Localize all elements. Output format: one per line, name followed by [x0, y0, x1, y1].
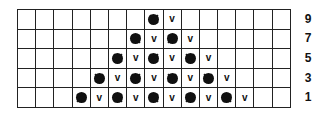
grid-cell — [236, 49, 254, 69]
grid-cell — [109, 30, 127, 50]
grid-cell — [164, 30, 182, 50]
grid-cell — [36, 10, 54, 30]
grid-cell: v — [145, 30, 163, 50]
grid-cell — [36, 30, 54, 50]
grid-cell: v — [236, 88, 254, 108]
v-stitch-symbol: v — [133, 53, 139, 63]
grid-cell — [254, 69, 272, 89]
grid-cell — [273, 30, 291, 50]
v-stitch-symbol: v — [169, 93, 175, 103]
star-burst-icon — [168, 34, 177, 43]
grid-cell — [91, 69, 109, 89]
v-stitch-symbol: v — [169, 14, 175, 24]
row-label: 3 — [298, 68, 318, 88]
grid-cell — [218, 10, 236, 30]
grid-cell — [200, 10, 218, 30]
star-burst-icon — [186, 54, 195, 63]
grid-cell — [236, 10, 254, 30]
grid-cell — [127, 10, 145, 30]
grid-cell — [91, 49, 109, 69]
grid-cell: v — [109, 69, 127, 89]
grid-cell: v — [164, 88, 182, 108]
v-stitch-symbol: v — [188, 34, 194, 44]
grid-cell — [18, 30, 36, 50]
star-burst-icon — [77, 93, 86, 102]
grid-cell: v — [145, 69, 163, 89]
grid-cell — [236, 69, 254, 89]
knitting-chart-grid: vvvvvvvvvvvvvvv — [17, 9, 291, 108]
grid-cell — [273, 88, 291, 108]
grid-cell — [145, 10, 163, 30]
grid-cell: v — [218, 69, 236, 89]
grid-cell — [273, 49, 291, 69]
row-label: 9 — [298, 9, 318, 29]
star-burst-icon — [149, 15, 158, 24]
grid-cell — [218, 49, 236, 69]
v-stitch-symbol: v — [188, 73, 194, 83]
grid-cell — [54, 49, 72, 69]
grid-cell — [273, 10, 291, 30]
grid-cell — [18, 88, 36, 108]
grid-cell — [73, 49, 91, 69]
star-burst-icon — [168, 74, 177, 83]
star-burst-icon — [95, 74, 104, 83]
star-burst-icon — [131, 74, 140, 83]
row-label: 7 — [298, 29, 318, 49]
star-burst-icon — [113, 93, 122, 102]
grid-cell — [36, 49, 54, 69]
grid-cell — [200, 30, 218, 50]
v-stitch-symbol: v — [97, 93, 103, 103]
grid-cell — [109, 88, 127, 108]
grid-cell — [54, 88, 72, 108]
grid-cell — [127, 69, 145, 89]
grid-cell — [36, 88, 54, 108]
grid-cell — [273, 69, 291, 89]
v-stitch-symbol: v — [169, 53, 175, 63]
grid-cell — [73, 30, 91, 50]
grid-cell — [91, 30, 109, 50]
star-burst-icon — [204, 74, 213, 83]
grid-cell: v — [127, 49, 145, 69]
star-burst-icon — [222, 93, 231, 102]
grid-cell: v — [127, 88, 145, 108]
grid-cell — [236, 30, 254, 50]
v-stitch-symbol: v — [242, 93, 248, 103]
grid-cell — [218, 30, 236, 50]
grid-cell — [18, 69, 36, 89]
v-stitch-symbol: v — [151, 34, 157, 44]
row-label: 5 — [298, 48, 318, 68]
grid-cell — [54, 10, 72, 30]
grid-cell — [200, 69, 218, 89]
v-stitch-symbol: v — [224, 73, 230, 83]
grid-cell — [164, 69, 182, 89]
grid-cell — [54, 69, 72, 89]
grid-cell — [182, 88, 200, 108]
grid-cell — [254, 49, 272, 69]
v-stitch-symbol: v — [151, 73, 157, 83]
grid-cell — [73, 10, 91, 30]
star-burst-icon — [149, 54, 158, 63]
grid-cell: v — [164, 10, 182, 30]
grid-cell — [18, 49, 36, 69]
grid-cell — [218, 88, 236, 108]
row-number-labels: 97531 — [298, 9, 318, 107]
grid-cell — [73, 88, 91, 108]
grid-cell — [254, 10, 272, 30]
v-stitch-symbol: v — [206, 53, 212, 63]
grid-cell — [73, 69, 91, 89]
star-burst-icon — [149, 93, 158, 102]
grid-cell — [182, 49, 200, 69]
star-burst-icon — [113, 54, 122, 63]
grid-cell — [145, 49, 163, 69]
grid-cell: v — [91, 88, 109, 108]
grid-cell — [127, 30, 145, 50]
grid-cell: v — [182, 30, 200, 50]
v-stitch-symbol: v — [206, 93, 212, 103]
grid-cell — [54, 30, 72, 50]
grid-cell: v — [200, 88, 218, 108]
grid-cell: v — [164, 49, 182, 69]
row-label: 1 — [298, 87, 318, 107]
grid-cell: v — [200, 49, 218, 69]
star-burst-icon — [131, 34, 140, 43]
grid-cell — [254, 30, 272, 50]
